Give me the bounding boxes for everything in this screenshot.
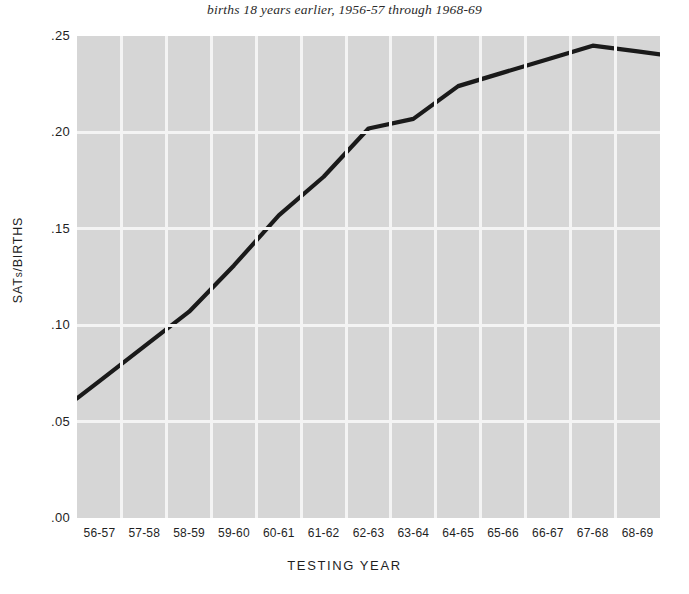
y-axis-title: SATs/BIRTHS: [11, 180, 25, 340]
y-axis-tick-label: .00: [4, 510, 70, 525]
gridline-vertical: [569, 36, 572, 518]
x-axis-title: TESTING YEAR: [0, 558, 689, 573]
gridline-vertical: [255, 36, 258, 518]
x-axis: 56-5757-5858-5959-6060-6161-6262-6363-64…: [77, 526, 660, 546]
gridline-vertical: [614, 36, 617, 518]
gridline-vertical: [300, 36, 303, 518]
chart-title: births 18 years earlier, 1956-57 through…: [0, 2, 689, 18]
x-axis-tick-label: 68-69: [608, 526, 668, 540]
y-axis: SATs/BIRTHS .25.20.15.10.05.00: [0, 0, 70, 594]
y-axis-tick-label: .05: [4, 414, 70, 429]
gridline-vertical: [165, 36, 168, 518]
gridline-vertical: [345, 36, 348, 518]
y-axis-tick-label: .25: [4, 28, 70, 43]
gridline-vertical: [434, 36, 437, 518]
y-axis-tick-label: .20: [4, 124, 70, 139]
y-axis-tick-label: .10: [4, 317, 70, 332]
y-axis-title-part-sub: s: [13, 272, 24, 278]
gridline-vertical: [210, 36, 213, 518]
gridline-vertical: [389, 36, 392, 518]
y-axis-tick-label: .15: [4, 221, 70, 236]
gridline-vertical: [524, 36, 527, 518]
gridline-vertical: [479, 36, 482, 518]
plot-area: [77, 36, 660, 518]
y-axis-title-part-main: SAT: [11, 277, 25, 303]
gridline-vertical: [120, 36, 123, 518]
